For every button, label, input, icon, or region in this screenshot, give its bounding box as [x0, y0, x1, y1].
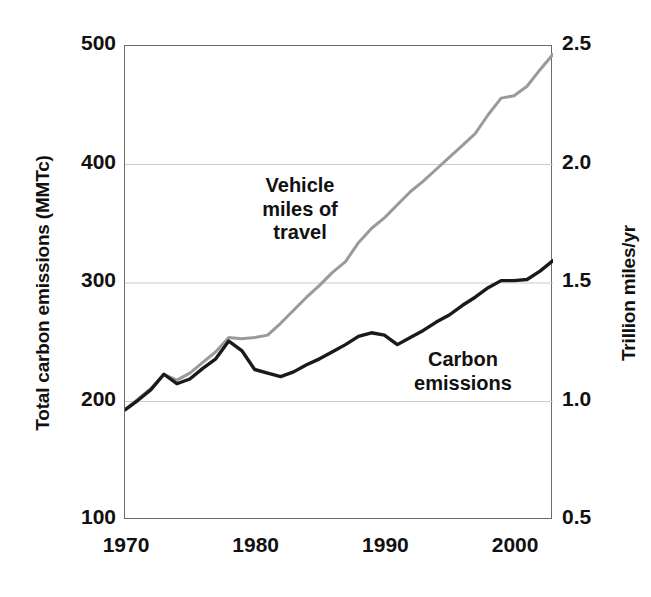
right-axis-title: Trillion miles/yr: [618, 83, 640, 503]
right-tick-1-5: 1.5: [562, 268, 591, 292]
x-tick-1980: 1980: [216, 533, 296, 557]
left-tick-500: 500: [81, 31, 116, 55]
left-tick-300: 300: [81, 268, 116, 292]
x-tick-2000: 2000: [475, 533, 555, 557]
x-tick-1990: 1990: [345, 533, 425, 557]
annotation-vehicle-miles-of-travel: Vehicle miles of travel: [214, 174, 386, 245]
left-tick-400: 400: [81, 150, 116, 174]
right-tick-2-5: 2.5: [562, 31, 591, 55]
plot-svg: [125, 46, 553, 520]
left-tick-100: 100: [81, 505, 116, 529]
right-tick-0-5: 0.5: [562, 505, 591, 529]
left-tick-200: 200: [81, 387, 116, 411]
right-tick-2-0: 2.0: [562, 150, 591, 174]
x-tick-1970: 1970: [86, 533, 166, 557]
right-tick-1-0: 1.0: [562, 387, 591, 411]
plot-area: [124, 45, 552, 519]
annotation-carbon-emissions: Carbon emissions: [378, 348, 548, 395]
chart-figure: Total carbon emissions (MMTc) Trillion m…: [0, 0, 651, 597]
left-axis-title: Total carbon emissions (MMTc): [32, 83, 54, 503]
